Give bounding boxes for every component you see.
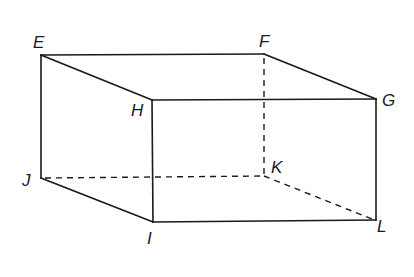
vertex-label-l: L xyxy=(377,217,386,236)
edge-hg xyxy=(152,99,376,100)
vertex-label-k: K xyxy=(271,158,283,177)
edge-ef xyxy=(41,54,264,55)
vertex-label-i: I xyxy=(147,229,152,248)
vertex-label-h: H xyxy=(131,101,144,120)
edge-fg xyxy=(264,54,376,99)
edge-eh xyxy=(41,55,152,100)
cuboid-diagram: E F G H I J K L xyxy=(0,0,414,277)
vertex-label-f: F xyxy=(259,32,271,51)
vertex-label-g: G xyxy=(382,91,395,110)
edge-ji xyxy=(41,178,153,222)
vertex-label-e: E xyxy=(33,33,45,52)
hidden-edge-jk xyxy=(45,176,264,178)
vertex-label-j: J xyxy=(21,171,31,190)
edge-hi xyxy=(152,100,153,222)
hidden-edge-kl xyxy=(264,176,372,219)
edge-il xyxy=(153,220,376,222)
